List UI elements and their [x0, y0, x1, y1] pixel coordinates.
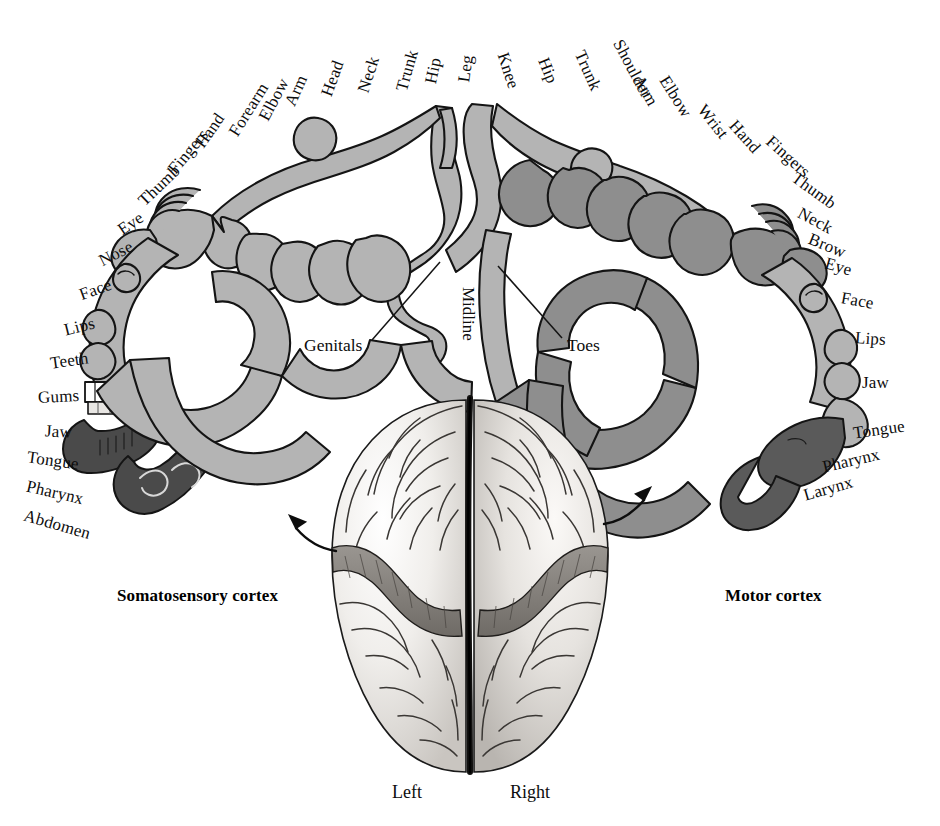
diagram-artwork — [0, 0, 940, 826]
motor-cortex-caption: Motor cortex — [725, 586, 822, 606]
brain-illustration — [332, 398, 608, 772]
toes-callout-label: Toes — [567, 335, 600, 356]
somatosensory-cortex-caption: Somatosensory cortex — [117, 586, 278, 606]
left-hemisphere-label: Left — [392, 782, 422, 803]
arrow-to-somatosensory — [296, 528, 336, 551]
genitals-callout-label: Genitals — [304, 335, 362, 356]
right-hemisphere-label: Right — [510, 782, 550, 803]
midline-label: Midline — [458, 287, 478, 341]
homunculus-figure: LegHipTrunkNeckHeadArmElbowForearmHandFi… — [0, 0, 940, 826]
